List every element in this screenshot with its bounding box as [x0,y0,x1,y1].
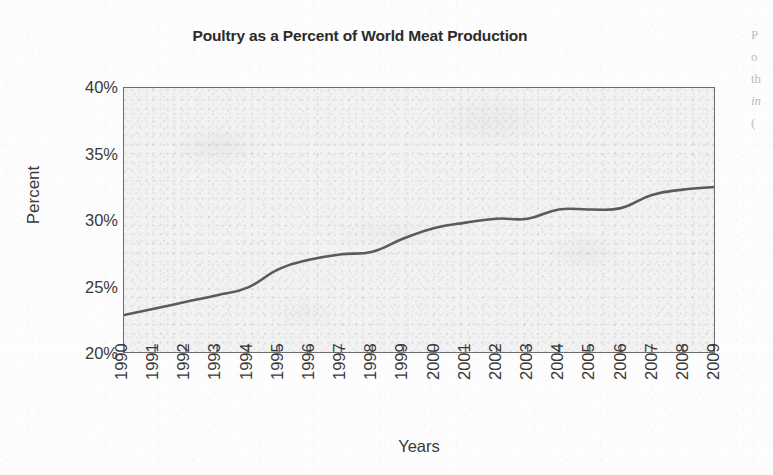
x-axis-title: Years [123,437,715,456]
x-tick-label: 1994 [237,358,256,380]
chart-title: Poultry as a Percent of World Meat Produ… [60,27,660,45]
data-series-line [124,187,714,315]
x-tick-label: 2003 [517,358,536,380]
x-tick-label: 1996 [299,358,318,380]
x-tick-label: 1999 [392,358,411,380]
y-axis-tick-marks [0,0,130,475]
x-tick-label: 2008 [673,358,692,380]
x-tick-label: 1995 [268,358,287,380]
margin-bleed-line: ( [751,112,773,134]
x-tick-label: 2007 [642,358,661,380]
margin-bleed-line: P [751,24,773,46]
margin-bleed-line: th [751,68,773,90]
x-tick-label: 1998 [361,358,380,380]
x-tick-label: 1992 [174,358,193,380]
x-axis-tick-labels: 1990199119921993199419951996199719981999… [123,358,715,444]
data-line-canvas [124,88,714,352]
x-tick-label: 1993 [205,358,224,380]
plot-area [123,87,715,353]
x-tick-label: 2000 [424,358,443,380]
scanned-page: Poultry as a Percent of World Meat Produ… [0,0,773,475]
margin-bleed-line: o [751,46,773,68]
x-tick-label: 1997 [330,358,349,380]
chart-figure: Poultry as a Percent of World Meat Produ… [0,0,740,475]
margin-bleed-line: in [751,90,773,112]
x-tick-label: 2001 [455,358,474,380]
x-tick-label: 2005 [579,358,598,380]
x-tick-label: 1991 [143,358,162,380]
x-tick-label: 2009 [704,358,723,380]
x-tick-label: 1990 [112,358,131,380]
margin-bleed-text: Pothin( [751,24,773,134]
x-tick-label: 2002 [486,358,505,380]
x-tick-label: 2006 [611,358,630,380]
x-tick-label: 2004 [548,358,567,380]
